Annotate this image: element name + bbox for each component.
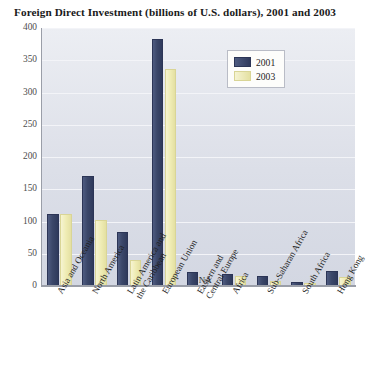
y-tick-label: 0 — [3, 280, 37, 290]
gridline — [42, 125, 355, 126]
y-tick-label: 200 — [3, 151, 37, 161]
bar-2001[interactable] — [187, 272, 199, 286]
legend-label-2003: 2003 — [256, 71, 275, 82]
y-tick-label: 100 — [3, 216, 37, 226]
gridline — [42, 28, 355, 29]
y-tick-label: 50 — [3, 248, 37, 258]
y-tick-label: 250 — [3, 119, 37, 129]
bar-2001[interactable] — [326, 271, 338, 286]
y-axis: 400350300250200150100500 — [0, 28, 37, 286]
legend-swatch-2001-icon — [234, 57, 251, 67]
legend-swatch-2003-icon — [234, 71, 251, 81]
y-tick-label: 400 — [3, 22, 37, 32]
y-tick-label: 300 — [3, 87, 37, 97]
y-tick-label: 150 — [3, 183, 37, 193]
gridline — [42, 60, 355, 61]
legend-label-2001: 2001 — [256, 57, 275, 68]
legend-item-2001: 2001 — [234, 55, 275, 69]
gridline — [42, 93, 355, 94]
bar-2001[interactable] — [47, 214, 59, 286]
bar-2001[interactable] — [82, 176, 94, 286]
gridline — [42, 157, 355, 158]
y-tick-label: 350 — [3, 54, 37, 64]
bar-chart: Foreign Direct Investment (billions of U… — [0, 0, 369, 367]
chart-title: Foreign Direct Investment (billions of U… — [14, 6, 336, 18]
chart-legend: 2001 2003 — [227, 50, 285, 88]
legend-item-2003: 2003 — [234, 69, 275, 83]
